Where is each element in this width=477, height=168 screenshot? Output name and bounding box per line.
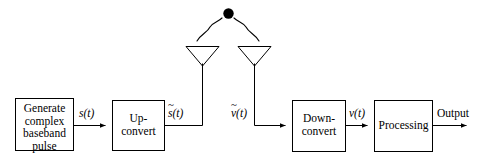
connector-rx-antenna-to-downconvert (255, 64, 286, 126)
signal-arg-baseband-rx: (t) (354, 107, 365, 119)
output-label: Output (437, 107, 469, 119)
block-upconvert-label: Up- convert (112, 112, 165, 137)
signal-base-rf-rx: ~v (231, 107, 236, 119)
signal-base-baseband-tx: s (79, 107, 83, 119)
signal-label-rf-rx: ~v(t) (231, 107, 247, 119)
signal-label-baseband-rx: v(t) (349, 107, 365, 119)
tilde-icon-rf-tx: ~ (168, 99, 171, 110)
signal-arg-rf-tx: (t) (172, 107, 183, 119)
signal-label-baseband-tx: s(t) (79, 107, 94, 119)
block-processing-label: Processing (374, 119, 433, 132)
block-generate-label: Generate complex baseband pulse (15, 102, 74, 152)
block-diagram-figure: Generate complex baseband pulse Up- conv… (0, 0, 477, 168)
signal-label-rf-tx: ~s(t) (168, 107, 183, 119)
tilde-icon-rf-rx: ~ (231, 99, 235, 110)
returning-wave-icon (234, 18, 259, 41)
signal-arg-baseband-tx: (t) (83, 107, 94, 119)
tx-antenna-icon (186, 47, 219, 67)
signal-base-rf-tx: ~s (168, 107, 172, 119)
signal-arg-rf-rx: (t) (236, 107, 247, 119)
rx-antenna-icon (238, 47, 271, 67)
block-downconvert-label: Down- convert (292, 112, 346, 137)
target-dot-icon (223, 8, 233, 18)
outgoing-wave-icon (197, 18, 222, 41)
signal-base-baseband-rx: v (349, 107, 354, 119)
